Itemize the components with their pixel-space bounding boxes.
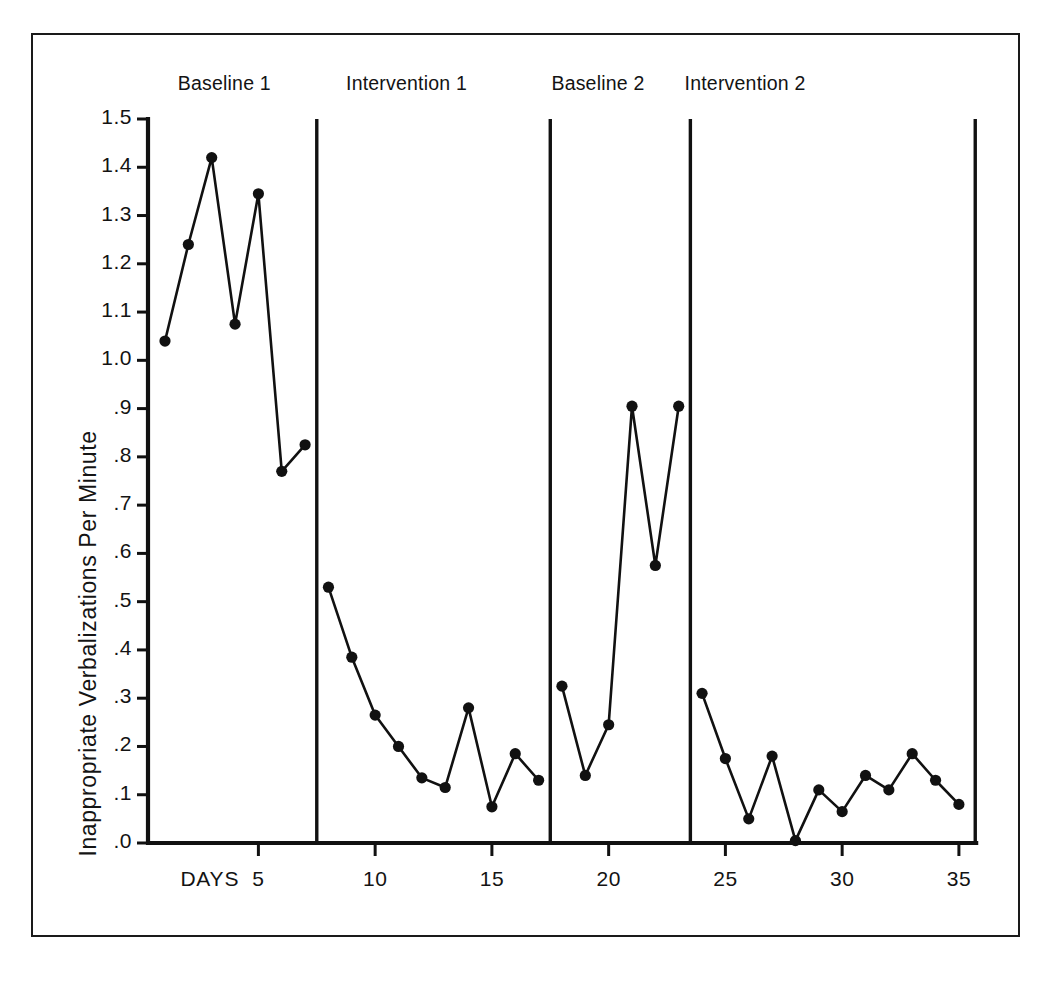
data-point xyxy=(907,748,918,759)
data-point xyxy=(183,239,194,250)
data-point xyxy=(533,775,544,786)
y-tick-label: 1.1 xyxy=(101,298,132,322)
data-point xyxy=(556,681,567,692)
y-tick-label: .9 xyxy=(113,395,132,419)
data-point xyxy=(813,784,824,795)
data-point xyxy=(930,775,941,786)
data-point xyxy=(440,782,451,793)
data-point xyxy=(229,319,240,330)
data-point xyxy=(463,702,474,713)
y-tick-label: 1.4 xyxy=(101,153,132,177)
x-tick-label: 35 xyxy=(919,867,999,891)
phase-label-1: Baseline 1 xyxy=(154,72,294,95)
chart-canvas xyxy=(0,0,1043,1003)
y-tick-label: 1.3 xyxy=(101,202,132,226)
data-point xyxy=(953,799,964,810)
data-point xyxy=(790,835,801,846)
x-tick-label: 20 xyxy=(569,867,649,891)
y-tick-label: .4 xyxy=(113,636,132,660)
x-tick-label: 25 xyxy=(685,867,765,891)
data-point xyxy=(720,753,731,764)
data-point xyxy=(370,709,381,720)
y-tick-label: .8 xyxy=(113,443,132,467)
data-point xyxy=(300,439,311,450)
data-point xyxy=(486,801,497,812)
data-point xyxy=(696,688,707,699)
x-axis-title: DAYS xyxy=(180,867,239,891)
series-line-phase-1 xyxy=(165,158,305,472)
data-point xyxy=(159,335,170,346)
series-line-phase-2 xyxy=(328,587,538,807)
y-tick-label: .5 xyxy=(113,588,132,612)
x-tick-label: 10 xyxy=(335,867,415,891)
data-point xyxy=(206,152,217,163)
phase-label-3: Baseline 2 xyxy=(528,72,668,95)
data-point xyxy=(626,401,637,412)
y-tick-label: .7 xyxy=(113,491,132,515)
y-tick-label: 1.2 xyxy=(101,250,132,274)
phase-label-4: Intervention 2 xyxy=(675,72,815,95)
data-point xyxy=(673,401,684,412)
data-point xyxy=(860,770,871,781)
y-tick-label: 1.0 xyxy=(101,346,132,370)
figure-root: Inappropriate Verbalizations Per Minute … xyxy=(0,0,1043,1003)
y-tick-label: .1 xyxy=(113,781,132,805)
data-point xyxy=(276,466,287,477)
data-point xyxy=(743,813,754,824)
y-tick-label: 1.5 xyxy=(101,105,132,129)
y-tick-label: .2 xyxy=(113,732,132,756)
data-point xyxy=(253,188,264,199)
y-tick-label: .3 xyxy=(113,684,132,708)
data-point xyxy=(416,772,427,783)
phase-label-2: Intervention 1 xyxy=(337,72,477,95)
data-point xyxy=(393,741,404,752)
series-line-phase-4 xyxy=(702,693,959,840)
series-line-phase-3 xyxy=(562,406,679,775)
data-point xyxy=(837,806,848,817)
data-point xyxy=(650,560,661,571)
x-tick-label: 30 xyxy=(802,867,882,891)
y-tick-label: .0 xyxy=(113,829,132,853)
data-point xyxy=(323,582,334,593)
data-point xyxy=(580,770,591,781)
x-tick-label: 15 xyxy=(452,867,532,891)
data-point xyxy=(346,652,357,663)
data-point xyxy=(883,784,894,795)
data-point xyxy=(767,751,778,762)
data-point xyxy=(603,719,614,730)
data-point xyxy=(510,748,521,759)
y-tick-label: .6 xyxy=(113,539,132,563)
